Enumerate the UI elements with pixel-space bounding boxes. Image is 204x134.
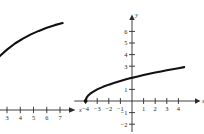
right-curve-endpoint-marker [84, 99, 88, 103]
left-x-tick-label-7: 7 [58, 114, 62, 121]
left-x-axis-arrowhead [69, 107, 76, 113]
right-curve-path [86, 67, 185, 101]
left-x-tick-label-6: 6 [45, 114, 48, 121]
right-y-axis-label: y [134, 11, 138, 18]
right-y-tick-label-4: 4 [124, 51, 128, 58]
right-x-tick-label-3: 3 [165, 105, 168, 112]
right-x-tick-labels: −4−3−2−11234 [82, 105, 181, 112]
right-y-tick-label-5: 5 [124, 39, 127, 46]
right-y-tick-label-6: 6 [124, 28, 127, 35]
chart-panel-left: 34567 x [0, 0, 96, 134]
right-y-tick-label-1: 1 [124, 86, 127, 93]
right-x-tick-label--4: −4 [82, 105, 90, 112]
figure-root: 34567 x −4−3−2−11234 −2−113456 x y [0, 0, 204, 134]
right-curve-group [84, 67, 185, 103]
right-x-tick-label-2: 2 [154, 105, 157, 112]
right-y-tick-labels: −2−113456 [121, 28, 129, 128]
right-x-tick-label--2: −2 [105, 105, 112, 112]
left-x-tick-label-5: 5 [32, 114, 35, 121]
left-x-tick-label-4: 4 [19, 114, 23, 121]
right-x-tick-label-4: 4 [177, 105, 181, 112]
left-curve-path [0, 23, 63, 57]
left-x-tick-labels: 34567 [5, 114, 62, 121]
right-y-axis-arrowhead [129, 15, 134, 21]
chart-panel-right: −4−3−2−11234 −2−113456 x y [96, 0, 204, 134]
right-x-tick-label--3: −3 [94, 105, 101, 112]
right-y-tick-label-3: 3 [124, 63, 127, 70]
right-x-tick-label-1: 1 [142, 105, 145, 112]
left-x-tick-label-3: 3 [5, 114, 8, 121]
right-y-tick-label--1: −1 [121, 109, 128, 116]
right-chart-svg: −4−3−2−11234 −2−113456 x y [96, 0, 204, 134]
right-y-tick-label--2: −2 [121, 121, 128, 128]
right-x-axis-arrowhead [195, 98, 201, 103]
left-curve-group [0, 23, 63, 57]
left-x-axis-group: 34567 x [0, 106, 82, 121]
right-x-axis-label: x [201, 97, 204, 104]
left-chart-svg: 34567 x [0, 0, 96, 134]
